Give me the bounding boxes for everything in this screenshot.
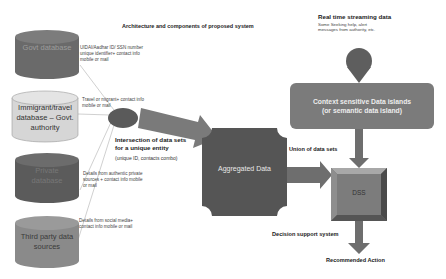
streaming-pin-icon (346, 48, 372, 83)
govt-database-label: Govt database (20, 43, 74, 53)
immigrant-note: Travel or migrant+ contact info mobile o… (82, 97, 148, 109)
context-island-line2: (or semantic data island) (290, 106, 434, 115)
third-party-label: Third party data sources (18, 232, 76, 252)
aggregated-data-shape (202, 128, 287, 216)
third-party-note: Details from social media+ contact info … (79, 218, 145, 230)
dss-caption: Decision support system (272, 230, 339, 238)
streaming-title: Real time streaming data (318, 13, 391, 21)
private-note: Details from authentic private sources +… (83, 171, 145, 190)
arrow-to-action (348, 221, 370, 254)
govt-database-cylinder (15, 30, 79, 79)
recommended-action-label: Recommended Action (326, 256, 385, 264)
context-island-line1: Context sensitive Data islands (290, 97, 434, 106)
intersection-ellipse (108, 108, 138, 128)
private-database-label: Private database (20, 166, 74, 186)
intersection-title-line2: for a unique entity (115, 144, 169, 152)
context-island-text: Context sensitive Data islands (or seman… (290, 97, 434, 115)
immigrant-database-label: Immigrant/travel database – Govt. author… (14, 103, 76, 133)
arrow-to-dss (287, 161, 332, 189)
govt-note: UIDAI/Aadhar ID/ SSN number unique ident… (80, 45, 152, 64)
aggregated-data-label: Aggregated Data (202, 165, 287, 172)
dss-label: DSS (337, 189, 381, 196)
arrow-island-to-dss (349, 129, 369, 168)
intersection-subtitle: (unique ID, contacts combo) (115, 155, 178, 161)
intersection-title-line1: Intersection of data sets (115, 136, 186, 144)
streaming-subtitle-2: messages from authority, etc. (318, 27, 375, 33)
diagram-title: Architecture and components of proposed … (122, 23, 254, 29)
union-label: Union of data sets (289, 145, 337, 153)
connector-lines (78, 65, 117, 240)
